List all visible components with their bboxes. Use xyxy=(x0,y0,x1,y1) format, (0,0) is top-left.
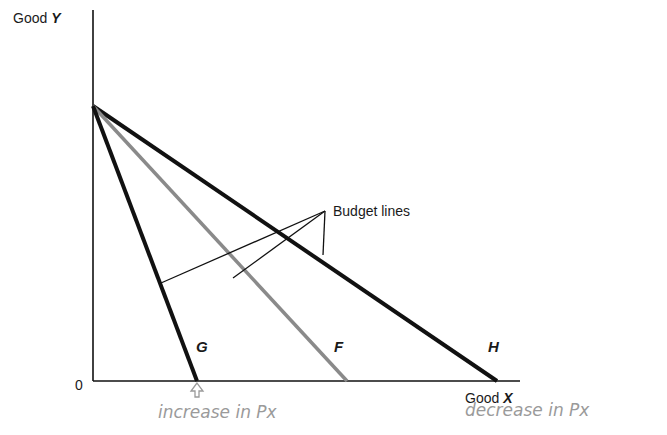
callout-leader-h xyxy=(323,211,325,255)
decrease-annotation: decrease in Px xyxy=(465,400,590,420)
origin-label: 0 xyxy=(75,377,83,393)
budget-line-f xyxy=(93,106,347,381)
increase-annotation: increase in Px xyxy=(158,402,278,422)
budget-line-g xyxy=(93,106,197,381)
callout-leader-f xyxy=(233,211,325,278)
line-label-g: G xyxy=(196,338,208,355)
line-label-h: H xyxy=(488,338,500,355)
up-arrow-icon xyxy=(191,383,203,397)
line-label-f: F xyxy=(334,338,344,355)
budget-line-h xyxy=(93,106,497,381)
budget-line-diagram: Good Y 0 Good X Budget lines G F H incre… xyxy=(0,0,667,435)
budget-lines-callout: Budget lines xyxy=(333,203,410,219)
y-axis-label: Good Y xyxy=(13,10,62,26)
